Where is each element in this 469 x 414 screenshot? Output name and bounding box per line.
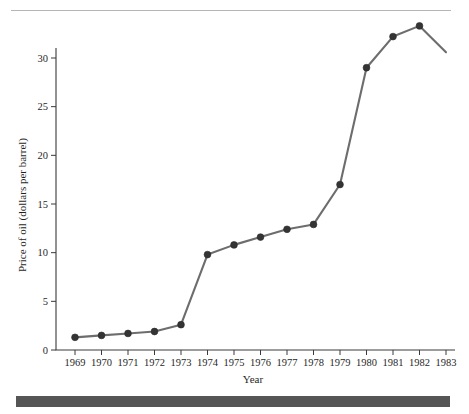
- x-tick-label-1972: 1972: [144, 357, 165, 368]
- price-of-oil-line: [75, 26, 446, 337]
- x-tick-label-1976: 1976: [250, 357, 271, 368]
- figure-container: 051015202530 196919701971197219731974197…: [0, 0, 469, 414]
- y-tick-label-30: 30: [38, 53, 49, 64]
- data-point-1979: [337, 181, 344, 188]
- x-tick-label-1975: 1975: [224, 357, 245, 368]
- data-point-1971: [125, 330, 132, 337]
- x-tick-label-1978: 1978: [303, 357, 324, 368]
- line-chart: 051015202530 196919701971197219731974197…: [0, 0, 469, 414]
- y-tick-label-15: 15: [38, 199, 49, 210]
- x-tick-label-1969: 1969: [65, 357, 86, 368]
- data-point-1976: [257, 234, 264, 241]
- x-tick-label-1970: 1970: [91, 357, 112, 368]
- x-axis-tick-labels: 1969197019711972197319741975197619771978…: [65, 357, 457, 368]
- x-tick-label-1973: 1973: [171, 357, 192, 368]
- y-axis-ticks: [51, 58, 56, 350]
- data-point-1980: [363, 64, 370, 71]
- data-point-markers: [72, 22, 423, 340]
- data-point-1969: [72, 334, 79, 341]
- y-tick-label-10: 10: [38, 247, 49, 258]
- x-tick-label-1971: 1971: [118, 357, 139, 368]
- x-tick-label-1974: 1974: [197, 357, 219, 368]
- x-tick-label-1983: 1983: [436, 357, 457, 368]
- x-tick-label-1979: 1979: [330, 357, 351, 368]
- axis-lines: [56, 48, 455, 350]
- data-point-1970: [98, 332, 105, 339]
- y-axis-title: Price of oil (dollars per barrel): [16, 138, 29, 272]
- footer-bar: [16, 396, 450, 407]
- x-tick-label-1981: 1981: [383, 357, 404, 368]
- data-point-1978: [310, 221, 317, 228]
- y-tick-label-20: 20: [38, 150, 49, 161]
- data-point-1974: [204, 251, 211, 258]
- data-point-1982: [416, 22, 423, 29]
- data-point-1975: [231, 241, 238, 248]
- x-axis-ticks: [75, 350, 446, 355]
- x-axis-title: Year: [243, 373, 264, 385]
- x-tick-label-1980: 1980: [356, 357, 377, 368]
- x-tick-label-1982: 1982: [409, 357, 430, 368]
- axes: [56, 48, 455, 350]
- data-point-1972: [151, 328, 158, 335]
- data-point-1977: [284, 226, 291, 233]
- x-tick-label-1977: 1977: [277, 357, 298, 368]
- y-tick-label-5: 5: [43, 296, 48, 307]
- y-tick-label-25: 25: [38, 101, 49, 112]
- y-tick-label-0: 0: [43, 345, 48, 356]
- data-point-1973: [178, 321, 185, 328]
- data-point-1981: [390, 33, 397, 40]
- y-axis-tick-labels: 051015202530: [38, 53, 49, 356]
